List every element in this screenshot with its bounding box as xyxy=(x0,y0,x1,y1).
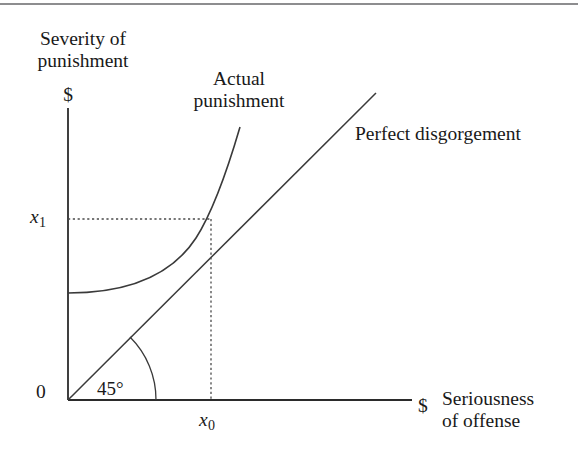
angle-label: 45° xyxy=(97,378,124,399)
y-axis-unit-label: $ xyxy=(53,84,83,106)
x-tick-label-x0: x0 xyxy=(199,409,215,434)
origin-label: 0 xyxy=(36,381,46,403)
perfect-disgorgement-line xyxy=(68,93,376,400)
actual-punishment-label: Actual punishment xyxy=(176,68,302,112)
perfect-disgorgement-label: Perfect disgorgement xyxy=(355,123,521,145)
x-tick-variable: x xyxy=(199,409,208,430)
y-axis-title: Severity of punishment xyxy=(22,28,144,72)
x-tick-subscript: 0 xyxy=(208,417,215,433)
y-tick-label-x1: x1 xyxy=(30,206,46,231)
x-axis-title: Seriousness of offense xyxy=(442,388,572,432)
y-tick-variable: x xyxy=(30,206,39,227)
x-axis-unit-label: $ xyxy=(418,395,428,417)
actual-punishment-curve xyxy=(68,127,240,293)
y-tick-subscript: 1 xyxy=(39,214,46,230)
figure-container: Severity of punishment $ Actual punishme… xyxy=(0,0,578,464)
